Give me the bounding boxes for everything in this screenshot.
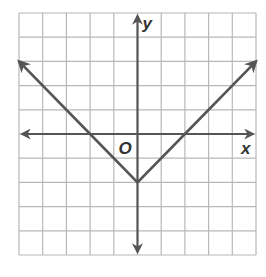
x-axis-label: x [240,139,252,158]
origin-label: O [119,139,132,158]
coordinate-plane: y x O [0,0,266,277]
y-axis-label: y [142,14,154,33]
axes [22,16,253,252]
